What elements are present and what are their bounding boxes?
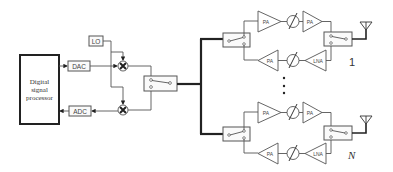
phase-shifter-icon [287,52,299,68]
antenna-icon [360,22,372,30]
svg-text:LNA: LNA [313,58,323,64]
pa-icon [258,11,281,32]
rf-chain-1: PA PA PA LNA 1 [223,11,372,71]
adc-block: ADC [60,106,118,116]
adc-label: ADC [73,108,87,115]
ellipsis-dots [283,77,285,94]
dsp-label-line3: processor [26,94,53,102]
chain-index-label: 1 [349,56,355,68]
lo-block: LO [89,36,123,104]
upper-mixer-icon [118,61,128,71]
lo-label: LO [92,38,101,45]
phase-shifter-icon [287,104,299,120]
svg-text:LNA: LNA [313,151,323,157]
beamforming-transceiver-diagram: Digital signal processor DAC ADC LO [0,0,393,172]
svg-text:PA: PA [263,110,270,116]
phase-shifter-icon [287,145,299,161]
digital-signal-processor-block: Digital signal processor [20,55,59,124]
antenna-icon [360,116,372,124]
svg-text:PA: PA [267,58,274,64]
dac-block: DAC [59,61,117,71]
svg-text:PA: PA [307,19,314,25]
chain-index-label: N [347,149,356,161]
svg-text:PA: PA [263,19,270,25]
svg-text:PA: PA [307,110,314,116]
dac-label: DAC [72,63,86,70]
lower-mixer-icon [118,105,128,115]
dsp-label-line1: Digital [30,78,49,86]
pa-icon [258,102,281,123]
phase-shifter-icon [287,13,299,29]
main-tr-switch [144,76,177,91]
svg-text:PA: PA [267,151,274,157]
dsp-label-line2: signal [31,86,48,94]
rf-chain-n: PA PA PA LNA N [223,102,372,164]
